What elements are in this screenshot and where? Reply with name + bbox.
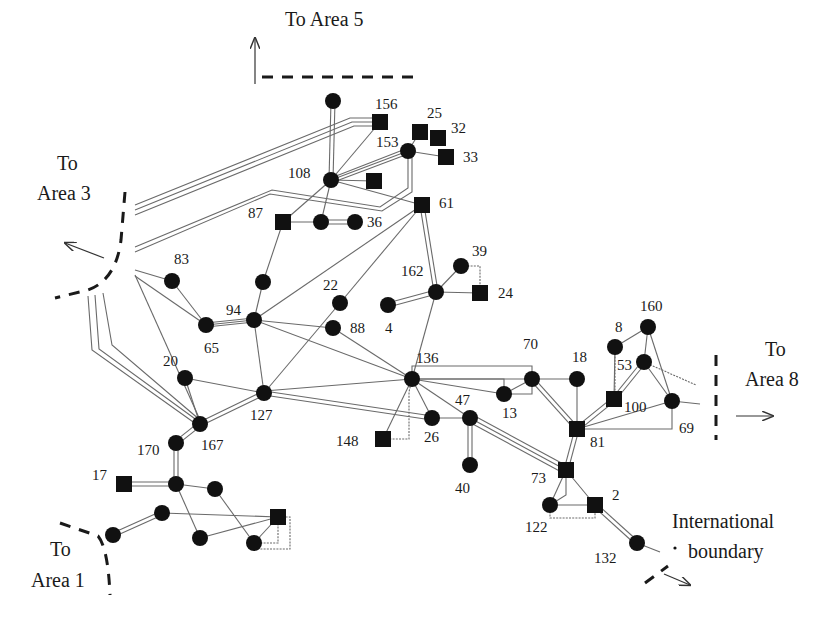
load-bus-122	[542, 497, 558, 513]
line-127-26	[264, 391, 432, 416]
bus-label-162: 162	[401, 263, 424, 279]
bus-label-53: 53	[617, 357, 632, 373]
load-bus-108	[323, 172, 339, 188]
bus-label-22: 22	[323, 277, 338, 293]
line-n-top-108	[333, 101, 335, 180]
line-70-81	[531, 380, 576, 430]
line-n-a1l-n-a1	[112, 511, 161, 533]
intl-dot	[673, 546, 676, 549]
load-bus-n-mid36	[313, 214, 329, 230]
bus-label-20: 20	[163, 353, 178, 369]
load-bus-65	[198, 317, 214, 333]
bus-label-122: 122	[525, 519, 548, 535]
bus-label-47: 47	[455, 392, 471, 408]
load-bus-8	[607, 339, 623, 355]
load-bus-160	[640, 319, 656, 335]
load-bus-18	[569, 371, 585, 387]
bus-label-87: 87	[248, 205, 264, 221]
line-20-127	[185, 378, 264, 393]
load-bus-94	[246, 312, 262, 328]
load-bus-n-17rr	[207, 481, 223, 497]
bus-label-61: 61	[439, 195, 454, 211]
area3-label-line2: Area 3	[37, 182, 91, 204]
bus-label-81: 81	[590, 434, 605, 450]
load-bus-36	[347, 214, 363, 230]
bus-label-32: 32	[451, 120, 466, 136]
bus-label-136: 136	[416, 350, 439, 366]
area-boundaries	[55, 77, 716, 595]
load-bus-40	[462, 457, 478, 473]
bus-label-24: 24	[498, 285, 514, 301]
area8-label-line1: To	[765, 338, 786, 360]
bus-label-26: 26	[424, 429, 440, 445]
area3-boundary	[55, 192, 125, 298]
generator-bus-sq-108	[366, 173, 382, 189]
generator-bus-17	[116, 476, 132, 492]
load-bus-70	[524, 371, 540, 387]
bus-label-94: 94	[226, 302, 242, 318]
bus-label-40: 40	[455, 480, 470, 496]
line-94-127	[254, 320, 264, 393]
load-bus-53	[636, 354, 652, 370]
generator-bus-33	[438, 149, 454, 165]
load-bus-22	[332, 295, 348, 311]
bus-label-36: 36	[367, 214, 383, 230]
load-bus-13	[496, 386, 512, 402]
bus-label-4: 4	[385, 320, 393, 336]
intl-boundary-label-line1: International	[672, 510, 775, 532]
line-162-61	[424, 205, 438, 292]
line-n-top-108	[329, 101, 331, 180]
bus-label-83: 83	[174, 251, 189, 267]
generator-bus-61	[414, 197, 430, 213]
bus-label-132: 132	[594, 550, 617, 566]
tie-line-bundles	[20, 0, 700, 552]
generator-bus-73	[558, 462, 574, 478]
arrow-downright-icon	[664, 574, 690, 585]
load-bus-47	[462, 410, 478, 426]
generator-bus-25	[412, 124, 428, 140]
generator-bus-100	[606, 391, 622, 407]
line-83-65	[172, 281, 206, 325]
area1-label-line1: To	[50, 538, 71, 560]
bus-label-167: 167	[201, 437, 224, 453]
bus-label-69: 69	[679, 420, 694, 436]
load-bus-132	[629, 535, 645, 551]
bus-label-2: 2	[612, 487, 620, 503]
line-47-73	[470, 418, 566, 470]
bus-label-18: 18	[572, 349, 587, 365]
generator-bus-87	[275, 214, 291, 230]
diagram-svg: 1562532331531086187368394652288391622441…	[0, 0, 836, 622]
area1-label-line2: Area 1	[31, 569, 85, 591]
generator-bus-sq-a1	[270, 509, 286, 525]
bus-label-108: 108	[288, 165, 311, 181]
line-n-a1b-sq-a1	[200, 517, 278, 538]
bus-label-170: 170	[137, 442, 160, 458]
load-bus-n-top	[325, 93, 341, 109]
arrow-left-icon	[65, 243, 104, 258]
bus-label-73: 73	[531, 470, 546, 486]
bus-label-65: 65	[204, 340, 219, 356]
bus-label-8: 8	[615, 319, 623, 335]
load-bus-n-17r	[168, 476, 184, 492]
load-bus-167	[192, 416, 208, 432]
load-bus-26	[424, 410, 440, 426]
generator-bus-156	[372, 114, 388, 130]
area8-label-line2: Area 8	[745, 368, 799, 390]
line-162-61	[420, 205, 434, 292]
line-70-81	[533, 378, 578, 428]
bus-label-25: 25	[427, 105, 442, 121]
line-n-a1-sq-a1	[162, 513, 278, 517]
area5-label: To Area 5	[285, 8, 364, 30]
load-bus-127	[256, 385, 272, 401]
load-bus-162	[428, 284, 444, 300]
bus-label-153: 153	[376, 134, 399, 150]
bus-label-100: 100	[624, 399, 647, 415]
load-bus-136	[404, 371, 420, 387]
bus-label-88: 88	[350, 320, 365, 336]
bus-label-33: 33	[463, 149, 478, 165]
bus-label-148: 148	[336, 433, 359, 449]
bus-label-160: 160	[640, 298, 663, 314]
load-bus-4	[380, 297, 396, 313]
generator-bus-24	[472, 285, 488, 301]
load-bus-69	[664, 393, 680, 409]
